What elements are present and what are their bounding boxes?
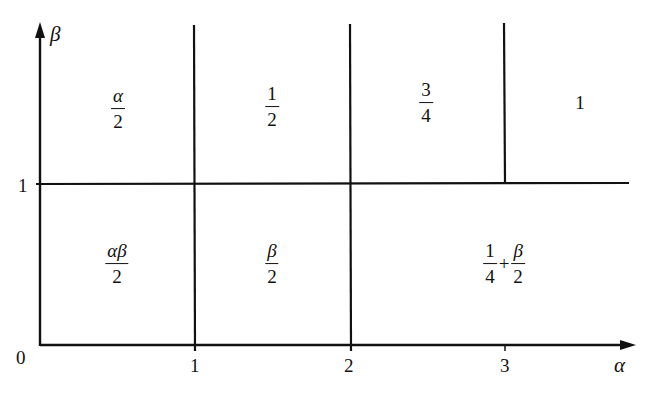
denominator: 2 bbox=[113, 109, 123, 132]
x-tick-3: 3 bbox=[500, 356, 510, 375]
boundary-alpha-1 bbox=[194, 25, 195, 351]
numerator: 3 bbox=[419, 80, 433, 103]
y-axis-label: β bbox=[50, 24, 60, 45]
region-top-3-value: 3 4 bbox=[419, 80, 433, 126]
numerator: β bbox=[265, 241, 278, 264]
denominator: 4 bbox=[485, 264, 495, 287]
y-axis-arrow-icon bbox=[35, 22, 45, 38]
origin-label: 0 bbox=[16, 348, 26, 367]
fraction-beta-half: β 2 bbox=[511, 241, 524, 287]
denominator: 2 bbox=[112, 264, 122, 287]
denominator: 2 bbox=[267, 264, 277, 287]
region-bottom-1-value: αβ 2 bbox=[105, 241, 128, 287]
boundary-beta-1 bbox=[36, 183, 629, 184]
numerator: α bbox=[111, 86, 125, 109]
region-top-1-value: α 2 bbox=[111, 86, 125, 132]
diagram-lines bbox=[0, 0, 646, 396]
fraction-one-quarter: 1 4 bbox=[483, 241, 497, 287]
region-top-4-value: 1 bbox=[575, 92, 585, 114]
denominator: 4 bbox=[421, 103, 431, 126]
x-tick-2: 2 bbox=[344, 356, 354, 375]
numerator: 1 bbox=[265, 84, 279, 107]
boundary-alpha-2 bbox=[350, 24, 351, 351]
plus-sign: + bbox=[499, 253, 510, 275]
y-tick-1: 1 bbox=[18, 176, 28, 195]
region-bottom-3-value: 1 4 + β 2 bbox=[483, 241, 525, 287]
x-axis-label: α bbox=[614, 355, 625, 376]
region-top-2-value: 1 2 bbox=[265, 84, 279, 130]
numerator: 1 bbox=[483, 241, 497, 264]
numerator: αβ bbox=[105, 241, 128, 264]
region-bottom-2-value: β 2 bbox=[265, 241, 278, 287]
x-tick-1: 1 bbox=[190, 356, 200, 375]
denominator: 2 bbox=[267, 107, 277, 130]
denominator: 2 bbox=[513, 264, 523, 287]
boundary-alpha-3 bbox=[504, 23, 505, 183]
x-axis-arrow-icon bbox=[620, 340, 636, 350]
numerator: β bbox=[511, 241, 524, 264]
